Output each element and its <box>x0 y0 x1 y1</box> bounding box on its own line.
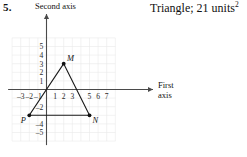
y-axis-arrow-icon <box>44 14 49 19</box>
vertex-point-n <box>88 113 92 117</box>
x-tick-label: 1 <box>53 92 57 101</box>
vertex-label-m: M <box>66 54 75 63</box>
x-tick-label: 7 <box>105 92 109 101</box>
vertex-label-n: N <box>92 116 99 125</box>
x-tick-label: 3 <box>70 92 74 101</box>
x-tick-label: 2 <box>62 92 66 101</box>
y-tick-label: –5 <box>35 128 44 137</box>
x-axis-arrow-icon <box>148 87 153 92</box>
y-tick-label: 1 <box>40 77 44 86</box>
coordinate-plane: –3–2–112356754321–2–4–5 MNP <box>0 0 247 157</box>
x-tick-label: 6 <box>96 92 100 101</box>
vertex-point-m <box>62 62 66 66</box>
x-tick-label: –2 <box>25 92 34 101</box>
axis-lines <box>8 14 153 145</box>
y-tick-label: –2 <box>35 103 44 112</box>
vertex-label-p: P <box>20 116 26 125</box>
x-tick-label: –3 <box>16 92 25 101</box>
x-tick-label: 5 <box>88 92 92 101</box>
vertex-point-p <box>27 113 31 117</box>
